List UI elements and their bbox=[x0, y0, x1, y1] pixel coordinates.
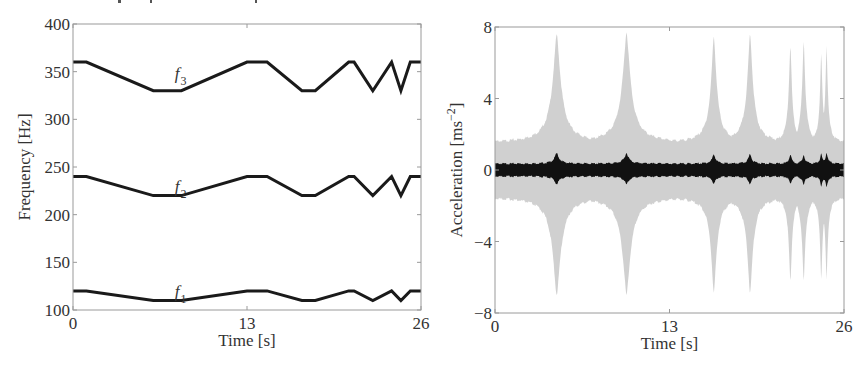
x-tick-label: 26 bbox=[413, 314, 430, 333]
y-tick-label: 250 bbox=[45, 158, 71, 177]
x-axis-label: Time [s] bbox=[218, 331, 275, 350]
y-tick-label: 0 bbox=[484, 161, 493, 180]
acceleration-signals bbox=[495, 33, 844, 295]
frequency-chart: 01326100150200250300350400 f3f2f1 Time [… bbox=[15, 15, 430, 350]
frequency-axes: 01326100150200250300350400 bbox=[45, 15, 430, 333]
x-tick-label: 0 bbox=[491, 317, 500, 336]
acceleration-chart: 01326−8−4048 Time [s] Acceleration [ms−2… bbox=[444, 18, 853, 353]
series-label-f2: f2 bbox=[175, 177, 187, 201]
y-tick-label: 200 bbox=[45, 206, 71, 225]
y-tick-label: −8 bbox=[474, 304, 492, 323]
y-tick-label: 4 bbox=[484, 90, 493, 109]
series-label-f1: f1 bbox=[175, 282, 187, 306]
y-tick-label: 150 bbox=[45, 253, 71, 272]
y-tick-label: 8 bbox=[484, 18, 493, 37]
line-f3 bbox=[73, 62, 421, 91]
frequency-lines bbox=[73, 62, 421, 300]
line-f1 bbox=[73, 291, 421, 301]
y-tick-label: 400 bbox=[45, 15, 71, 34]
series-label-f3: f3 bbox=[175, 64, 187, 88]
y-tick-label: 100 bbox=[45, 301, 71, 320]
figure: 01326100150200250300350400 f3f2f1 Time [… bbox=[0, 0, 867, 370]
cropped-caption-fragment bbox=[118, 0, 257, 3]
line-f2 bbox=[73, 177, 421, 196]
y-tick-label: −4 bbox=[474, 233, 493, 252]
x-axis-label: Time [s] bbox=[641, 334, 698, 353]
y-tick-label: 300 bbox=[45, 110, 71, 129]
frequency-line-labels: f3f2f1 bbox=[175, 64, 187, 305]
x-tick-label: 0 bbox=[69, 314, 78, 333]
x-tick-label: 26 bbox=[836, 317, 853, 336]
axes-frame bbox=[73, 24, 421, 310]
y-axis-label: Acceleration [ms−2] bbox=[444, 102, 466, 237]
y-tick-label: 350 bbox=[45, 63, 71, 82]
y-axis-label: Frequency [Hz] bbox=[15, 113, 34, 220]
